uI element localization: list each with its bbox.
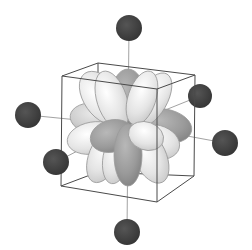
ligand-bottom [114,219,140,245]
cube-edge-bottom-front [61,186,157,202]
ligand-left [15,102,41,128]
diagram-canvas [0,0,252,250]
ligand-front-left [43,149,69,175]
ligand-right [212,130,238,156]
ligand-top [116,15,142,41]
ligand-sphere [188,84,212,108]
orbital-diagram [0,0,252,250]
